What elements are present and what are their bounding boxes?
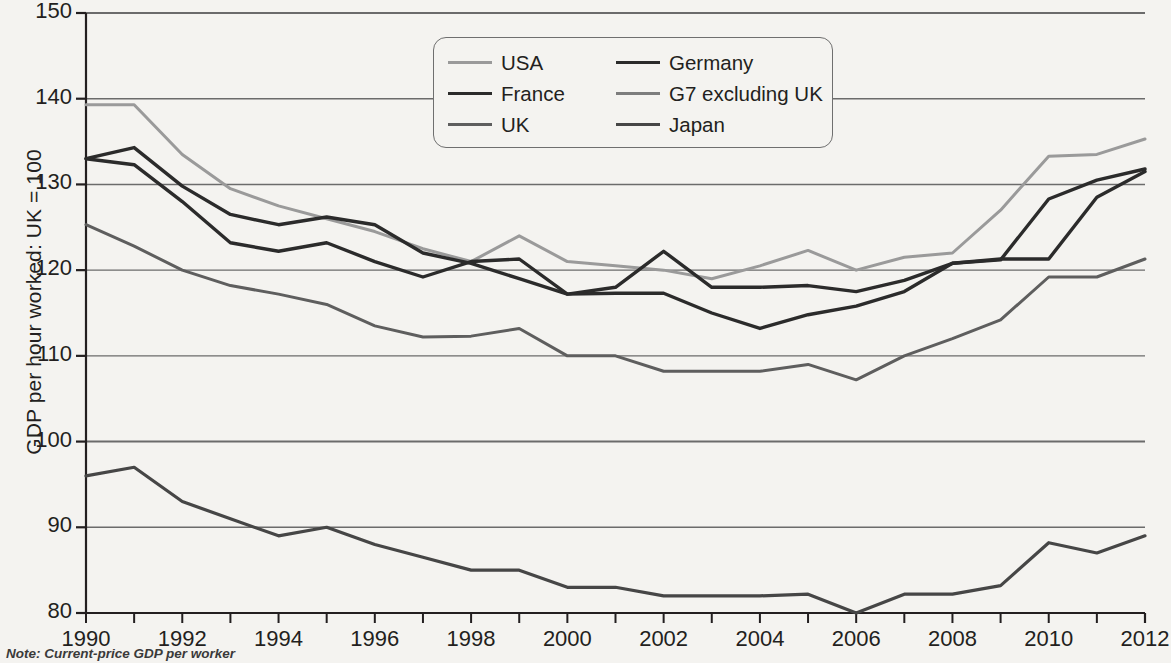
legend-item-france[interactable]: France	[448, 82, 616, 106]
x-axis-label-2002: 2002	[639, 626, 688, 652]
y-axis-label-80: 80	[14, 598, 72, 624]
y-axis-label-110: 110	[14, 341, 72, 367]
x-axis-label-2006: 2006	[832, 626, 881, 652]
x-axis-label-2010: 2010	[1024, 626, 1073, 652]
legend-item-uk[interactable]: UK	[448, 113, 616, 137]
y-axis-label-140: 140	[14, 84, 72, 110]
legend-item-japan[interactable]: Japan	[616, 113, 832, 137]
legend-label: G7 excluding UK	[669, 82, 823, 106]
x-axis-label-1994: 1994	[254, 626, 303, 652]
chart-note: Note: Current-price GDP per worker	[6, 646, 235, 661]
chart-legend: USAGermanyFranceG7 excluding UKUKJapan	[433, 37, 833, 148]
legend-label: France	[501, 82, 565, 106]
x-axis-label-1996: 1996	[350, 626, 399, 652]
y-axis-label-100: 100	[14, 427, 72, 453]
legend-label: Germany	[669, 51, 753, 75]
y-axis-tick-labels: 1501401301201101009080	[6, 0, 72, 663]
x-axis-label-1998: 1998	[447, 626, 496, 652]
legend-swatch-icon	[448, 61, 492, 64]
legend-swatch-icon	[616, 123, 660, 126]
legend-item-usa[interactable]: USA	[448, 51, 616, 75]
x-axis-label-2000: 2000	[543, 626, 592, 652]
legend-label: UK	[501, 113, 529, 137]
legend-swatch-icon	[616, 61, 660, 64]
y-axis-label-150: 150	[14, 0, 72, 24]
legend-label: USA	[501, 51, 543, 75]
legend-label: Japan	[669, 113, 725, 137]
y-axis-label-130: 130	[14, 169, 72, 195]
legend-item-germany[interactable]: Germany	[616, 51, 832, 75]
x-axis-label-2004: 2004	[735, 626, 784, 652]
legend-swatch-icon	[448, 92, 492, 95]
x-axis-label-2012: 2012	[1121, 626, 1170, 652]
y-axis-label-90: 90	[14, 512, 72, 538]
x-axis-label-2008: 2008	[928, 626, 977, 652]
legend-swatch-icon	[448, 123, 492, 126]
y-axis-label-120: 120	[14, 255, 72, 281]
legend-swatch-icon	[616, 92, 660, 95]
gdp-per-hour-worked-line-chart: GDP per hour worked: UK = 100 1501401301…	[0, 0, 1171, 663]
legend-item-g7-excluding-uk[interactable]: G7 excluding UK	[616, 82, 832, 106]
